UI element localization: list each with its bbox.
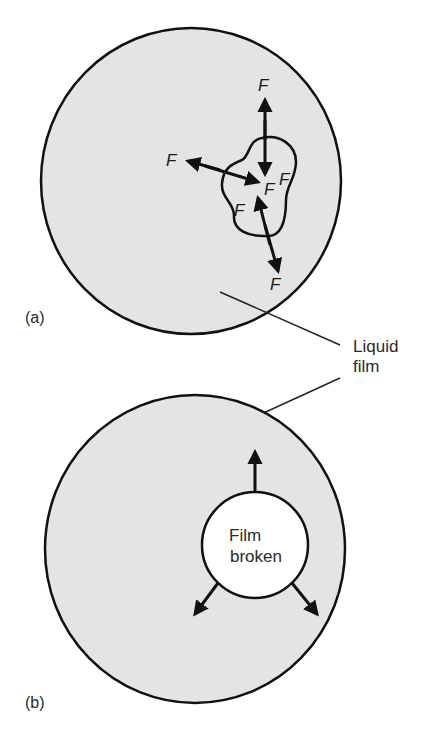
panel-a: F F F F F F (a) xyxy=(25,28,341,334)
callout-label-line2: film xyxy=(353,357,379,376)
force-label-lower-left: F xyxy=(234,201,246,220)
panel-b: Film broken (b) xyxy=(25,395,345,711)
force-label-center: F xyxy=(264,180,276,199)
force-label-bottom: F xyxy=(270,275,282,294)
force-label-top: F xyxy=(258,76,270,95)
force-label-left: F xyxy=(166,151,178,170)
force-label-center-right: F xyxy=(279,170,291,189)
callout-label-line1: Liquid xyxy=(353,337,398,356)
liquid-film-diagram: F F F F F F (a) Liquid film Film broken … xyxy=(0,0,433,739)
panel-label-b: (b) xyxy=(25,694,45,711)
hole-label-line2: broken xyxy=(230,547,282,566)
hole-label-line1: Film xyxy=(229,526,261,545)
panel-label-a: (a) xyxy=(25,309,45,326)
film-circle-a xyxy=(41,28,341,334)
broken-hole xyxy=(202,492,308,598)
